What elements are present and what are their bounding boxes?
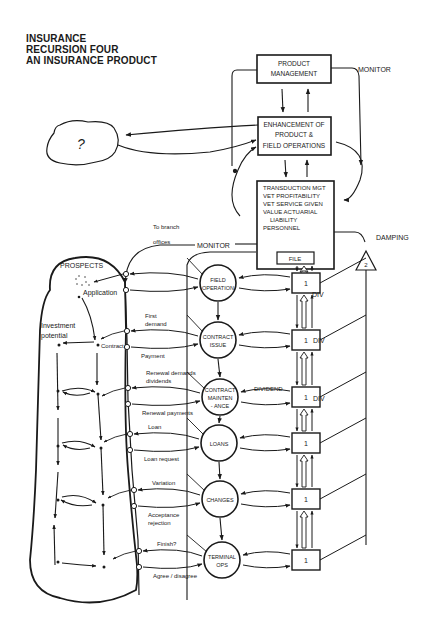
operation-label: OPS: [216, 562, 228, 568]
flow-node: [136, 564, 141, 569]
flow-in-label: Loan: [148, 424, 161, 430]
flow-node: [131, 487, 136, 492]
prospects-environment: [30, 257, 137, 603]
tr-line-6: PERSONNEL: [263, 225, 301, 231]
flow-in-label: Finish?: [157, 541, 177, 547]
operation-contract-issue: CONTRACTISSUE1FirstdemandPayment: [101, 295, 366, 377]
flow-node: [124, 328, 129, 333]
regulator-value: 1: [304, 557, 308, 564]
tr-line-1: TRANSDUCTION MGT: [263, 185, 326, 191]
flow-node: [124, 344, 129, 349]
operation-label: TERMINAL: [208, 554, 236, 560]
operation-label: ISSUE: [210, 342, 227, 348]
flow-out-label: Loan request: [144, 456, 179, 462]
flow-out-label: Payment: [141, 353, 165, 359]
flow-in-label: First: [145, 313, 157, 319]
div-label-2: DIV: [313, 337, 325, 344]
tr-line-2: VET PROFITABILITY: [263, 193, 320, 199]
enh-line-3: FIELD OPERATIONS: [263, 142, 326, 149]
operation-circle: [204, 542, 240, 578]
operation-label: - ANCE: [211, 403, 230, 409]
regulator-value: 1: [304, 394, 308, 401]
dividend-label: DIVIDEND: [254, 386, 283, 392]
to-branch-label-2: offices: [153, 239, 170, 245]
tr-line-5: LIABILITY: [270, 217, 297, 223]
operation-label: LOANS: [210, 441, 229, 447]
operation-loans: LOANS1LoanLoan request: [104, 409, 366, 479]
operation-label: MAINTEN: [208, 395, 233, 401]
monitor-label-top: MONITOR: [358, 66, 391, 73]
operation-contract-maintenance: CONTRACTMAINTEN- ANCE1Renewal demandsdiv…: [102, 352, 366, 423]
population-dots: [57, 275, 106, 568]
flow-out-label: Agree / disagree: [153, 573, 198, 579]
enh-line-2: PRODUCT &: [275, 131, 314, 138]
enh-line-1: ENHANCEMENT OF: [264, 121, 325, 128]
operation-label: OPERATION: [202, 285, 234, 291]
regulator-value: 1: [304, 440, 308, 447]
application-label: Application: [83, 289, 117, 297]
investment-label-1: Investment: [41, 322, 75, 329]
flow-node: [123, 287, 128, 292]
hollow-up-arrow: [300, 409, 308, 431]
cloud-question-mark: ?: [77, 136, 85, 152]
div-label-1: DIV: [312, 291, 324, 298]
flow-node: [123, 271, 128, 276]
flow-node: [131, 503, 136, 508]
flow-out-label: Renewal payments: [142, 410, 193, 416]
flow-out-label: Acceptance: [148, 512, 180, 518]
file-label: FILE: [289, 256, 302, 262]
operation-label: CONTRACT: [205, 387, 236, 393]
tr-line-3: VET SERVICE GIVEN: [263, 201, 323, 207]
operation-circle: [200, 265, 236, 301]
recursion-diagram: FIELDOPERATION1CONTRACTISSUE1Firstdemand…: [0, 0, 435, 640]
hollow-up-arrow: [300, 352, 308, 385]
flow-node: [125, 401, 130, 406]
to-branch-label-1: To branch: [153, 224, 179, 230]
hollow-up-arrow: [300, 511, 308, 548]
hollow-up-arrow: [300, 455, 308, 487]
operation-label: CONTRACT: [203, 334, 234, 340]
investment-label-2: potential: [41, 332, 68, 340]
tr-line-4: VALUE ACTUARIAL: [263, 209, 318, 215]
damping-label: DAMPING: [376, 234, 409, 241]
operation-label: CHANGES: [206, 497, 234, 503]
regulator-value: 1: [304, 280, 308, 287]
hollow-up-arrow: [300, 295, 308, 328]
regulator-value: 1: [304, 496, 308, 503]
flow-in-label: dividends: [146, 378, 171, 384]
flow-node: [127, 447, 132, 452]
operation-field-operation: FIELDOPERATION1: [123, 258, 366, 320]
monitor-label-mid: MONITOR: [197, 242, 230, 249]
flow-node: [125, 385, 130, 390]
flow-in-label: Variation: [152, 480, 175, 486]
pm-line-1: PRODUCT: [278, 60, 310, 67]
contract-label: Contract: [101, 343, 124, 349]
operation-changes: CHANGES1VariationAcceptancerejection: [108, 455, 366, 540]
flow-out-label: rejection: [148, 520, 171, 526]
flow-in-label: demand: [145, 321, 167, 327]
prospects-label: PROSPECTS: [60, 262, 104, 269]
flow-node: [136, 548, 141, 553]
operation-circle: [200, 322, 236, 358]
pm-line-2: MANAGEMENT: [271, 70, 318, 77]
operation-label: FIELD: [210, 277, 226, 283]
damping-number: 2: [364, 262, 368, 268]
div-label-3: DIV: [313, 395, 325, 402]
flow-node: [127, 431, 132, 436]
regulator-value: 1: [304, 337, 308, 344]
